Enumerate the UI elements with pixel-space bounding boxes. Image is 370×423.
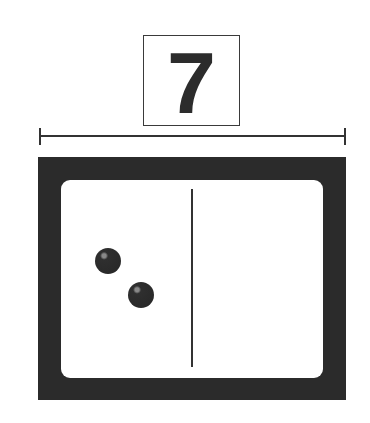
measure-line xyxy=(39,135,346,137)
measure-tick-right xyxy=(344,128,346,145)
number-value: 7 xyxy=(167,39,216,127)
pip-1 xyxy=(95,248,121,274)
width-measure-line xyxy=(39,128,346,145)
number-card: 7 xyxy=(143,35,240,126)
domino-divider xyxy=(191,189,193,367)
domino-face xyxy=(61,180,323,378)
domino-tile xyxy=(38,157,346,400)
pip-2 xyxy=(128,282,154,308)
measure-tick-left xyxy=(39,128,41,145)
